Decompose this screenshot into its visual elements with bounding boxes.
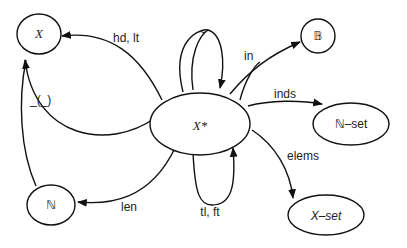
edge-concat-loop [180, 30, 223, 92]
label-len: len [121, 200, 137, 214]
function-diagram: X* X ℕ 𝔹 ℕ–set X–set hd, lt _(_) len ~ t… [0, 0, 407, 248]
edge-len [78, 148, 175, 203]
node-xset-label: X–set [310, 209, 342, 223]
node-bool-label: 𝔹 [314, 29, 323, 43]
label-elems: elems [287, 149, 319, 163]
node-nat-label: ℕ [46, 198, 56, 212]
edge-inds [248, 101, 322, 106]
label-hd-lt: hd, lt [113, 31, 140, 45]
edge-tlft-loop [193, 148, 234, 205]
label-tlft: tl, ft [200, 205, 220, 219]
label-concat: ~ [198, 25, 205, 39]
node-x-label: X [34, 26, 44, 41]
edge-concat-loop-inner [192, 30, 208, 90]
label-index: _(_) [29, 93, 51, 107]
node-center-label: X* [192, 118, 208, 133]
label-inds: inds [274, 87, 296, 101]
node-natset-label: ℕ–set [335, 117, 368, 131]
edge-hd-lt [62, 35, 162, 100]
label-in: in [244, 49, 253, 63]
edge-elems [252, 130, 293, 198]
